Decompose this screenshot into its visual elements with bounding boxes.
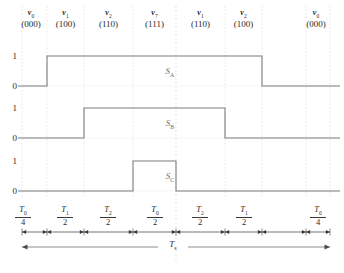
axis-low-label-sb: 0 [6, 134, 17, 143]
vector-label-1: v1 [47, 9, 84, 19]
segment-arrow-left-5 [225, 230, 229, 234]
axis-low-label-sa: 0 [6, 82, 17, 91]
vector-code-4: (110) [176, 20, 225, 29]
waveform-label-sb: SB [150, 119, 190, 130]
waveform-label-sa: SA [150, 67, 190, 78]
segment-arrow-right-3 [172, 230, 176, 234]
segment-arrow-left-4 [176, 230, 180, 234]
segment-arrow-left-0 [22, 230, 26, 234]
figure-canvas: v0 (000) v1 (100) v2 (110) v7 (111) v1 (… [0, 0, 344, 273]
vector-label-4: v1 [176, 9, 225, 19]
axis-low-label-sc: 0 [6, 187, 17, 196]
vector-label-2: v2 [84, 9, 133, 19]
total-period-arrow-right [325, 244, 331, 249]
segment-arrow-right-2 [129, 230, 133, 234]
vector-code-6: (000) [296, 20, 336, 29]
segment-arrow-right-4 [221, 230, 225, 234]
waveform-label-sc: SC [150, 172, 190, 183]
segment-duration-4: T22 [190, 205, 210, 227]
vector-label-3: v7 [133, 9, 176, 19]
total-period-arrow-left [22, 244, 28, 249]
segment-duration-0: T04 [13, 205, 33, 227]
segment-arrow-left-6 [262, 230, 266, 234]
segment-arrow-right-7 [326, 230, 330, 234]
vector-label-0: v0 [13, 9, 49, 19]
vector-code-5: (100) [225, 20, 262, 29]
segment-duration-6: T04 [308, 205, 328, 227]
segment-arrow-right-0 [43, 230, 47, 234]
vector-label-6: v0 [296, 9, 336, 19]
vector-label-5: v2 [225, 9, 262, 19]
timing-diagram-graphics [0, 0, 344, 273]
vector-code-0: (000) [13, 20, 49, 29]
vector-code-2: (110) [84, 20, 133, 29]
segment-arrow-right-5 [258, 230, 262, 234]
segment-arrow-left-3 [133, 230, 137, 234]
axis-high-label-sc: 1 [6, 157, 17, 166]
segment-arrow-left-7 [306, 230, 310, 234]
segment-arrow-left-2 [84, 230, 88, 234]
total-period-label: Ts [158, 239, 188, 251]
segment-duration-5: T12 [234, 205, 254, 227]
segment-arrow-left-1 [47, 230, 51, 234]
vector-code-3: (111) [133, 20, 176, 29]
segment-duration-3: T02 [145, 205, 165, 227]
segment-duration-1: T12 [55, 205, 75, 227]
segment-arrow-right-6 [302, 230, 306, 234]
vector-code-1: (100) [47, 20, 84, 29]
segment-duration-2: T22 [98, 205, 118, 227]
segment-arrow-right-1 [80, 230, 84, 234]
axis-high-label-sb: 1 [6, 104, 17, 113]
axis-high-label-sa: 1 [6, 52, 17, 61]
